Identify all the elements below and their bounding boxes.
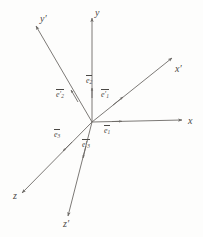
axis-label-x-prime: x′ — [175, 64, 182, 74]
basis-label-e2-index: 2 — [90, 79, 93, 85]
axis-line-z-prime — [68, 122, 92, 216]
basis-label-e2-prime-index: 2 — [61, 93, 64, 99]
axis-label-x: x — [188, 116, 192, 126]
basis-label-e1-index: 1 — [108, 129, 111, 135]
basis-label-e3: e3 — [54, 129, 60, 139]
axis-label-y: y — [95, 8, 99, 18]
axis-line-x — [92, 120, 182, 122]
basis-label-e1: e1 — [104, 125, 110, 135]
axis-label-z: z — [13, 191, 17, 201]
axis-label-y-prime: y′ — [40, 14, 47, 24]
basis-vector-e1-prime — [113, 97, 123, 105]
basis-label-e1-prime-index: 1 — [106, 93, 109, 99]
basis-vector-e3 — [63, 142, 72, 151]
basis-label-e2: e2 — [86, 75, 92, 85]
basis-label-e3-prime-index: 3 — [87, 143, 90, 149]
figure-canvas — [0, 0, 203, 237]
coordinate-system-figure: x y z x′ y′ z′ e1 e2 e3 e′1 e′2 e′3 — [0, 0, 203, 237]
axis-line-y-prime — [36, 26, 92, 122]
basis-label-e3-index: 3 — [58, 133, 61, 139]
basis-label-e1-prime: e′1 — [101, 89, 109, 99]
basis-label-e3-prime: e′3 — [82, 139, 90, 149]
axis-label-z-prime: z′ — [63, 219, 69, 229]
basis-label-e2-prime: e′2 — [56, 89, 64, 99]
